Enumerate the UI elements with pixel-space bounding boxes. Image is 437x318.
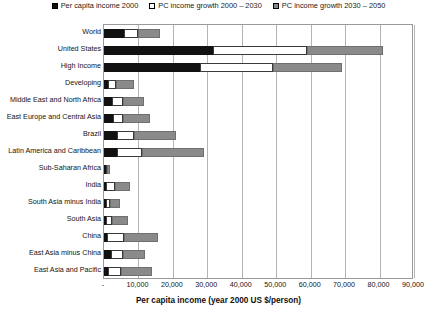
bar-segment-series-0[interactable] [104,46,213,55]
legend-item-0[interactable]: Per capita income 2000 [52,2,139,10]
y-axis-label: China [1,232,101,240]
bar-segment-series-2[interactable] [110,199,120,208]
bar-segment-series-1[interactable] [108,267,120,276]
y-axis-label: East Asia minus China [1,249,101,257]
bar-segment-series-2[interactable] [134,131,176,140]
bar-segment-series-1[interactable] [113,114,123,123]
x-axis-tick-label: - [102,280,104,289]
y-axis-label: Sub-Saharan Africa [1,164,101,172]
bar-segment-series-0[interactable] [104,131,117,140]
y-axis-label: Latin America and Caribbean [1,147,101,155]
x-axis-tick-label: 80,000 [368,280,390,289]
y-axis-label: Brazil [1,130,101,138]
bar-row [104,144,414,161]
bar-segment-series-2[interactable] [273,63,342,72]
bar-segment-series-2[interactable] [121,267,152,276]
bar-segment-series-2[interactable] [123,97,144,106]
bar-segment-series-1[interactable] [106,216,113,225]
legend-swatch-black-icon [52,3,58,9]
bar-row [104,59,414,76]
legend-item-2[interactable]: PC income growth 2030 – 2050 [273,2,386,10]
bar-segment-series-2[interactable] [107,165,109,174]
bar-segment-series-2[interactable] [124,233,158,242]
bar-row [104,76,414,93]
bar-segment-series-2[interactable] [112,216,128,225]
bar-segment-series-1[interactable] [117,148,141,157]
plot-area [103,24,413,279]
bar-segment-series-2[interactable] [138,29,160,38]
y-axis-label: United States [1,45,101,53]
x-axis-tick-label: 50,000 [264,280,286,289]
bar-row [104,263,414,280]
x-axis-tick-label: 70,000 [333,280,355,289]
y-axis-label: Middle East and North Africa [1,96,101,104]
bar-segment-series-0[interactable] [104,97,112,106]
bar-chart: Per capita income 2000PC income growth 2… [0,0,437,318]
bar-segment-series-1[interactable] [213,46,308,55]
legend-swatch-gray-icon [273,3,279,9]
y-axis-labels: WorldUnited StatesHigh IncomeDevelopingM… [0,24,101,279]
bar-segment-series-0[interactable] [104,63,200,72]
gridline [414,25,415,278]
bar-row [104,212,414,229]
y-axis-label: South Asia minus India [1,198,101,206]
bar-row [104,25,414,42]
y-axis-label: East Asia and Pacific [1,266,101,274]
x-axis-title: Per capita income (year 2000 US $/person… [0,296,437,305]
legend-label: PC income growth 2000 – 2030 [158,2,262,10]
bar-segment-series-2[interactable] [123,250,145,259]
y-axis-label: Developing [1,79,101,87]
bar-segment-series-0[interactable] [104,114,113,123]
x-axis-tick-label: 60,000 [299,280,321,289]
bar-segment-series-1[interactable] [124,29,138,38]
y-axis-label: South Asia [1,215,101,223]
bar-row [104,127,414,144]
chart-legend: Per capita income 2000PC income growth 2… [0,2,437,10]
bar-row [104,93,414,110]
x-axis-tick-label: 10,000 [126,280,148,289]
bar-segment-series-1[interactable] [111,250,122,259]
y-axis-label: India [1,181,101,189]
bar-row [104,110,414,127]
bar-segment-series-2[interactable] [116,80,134,89]
bar-segment-series-1[interactable] [106,182,115,191]
bar-row [104,42,414,59]
bar-segment-series-1[interactable] [108,80,116,89]
bar-segment-series-0[interactable] [104,29,124,38]
x-axis-tick-label: 90,000 [402,280,424,289]
bar-segment-series-2[interactable] [142,148,204,157]
bar-segment-series-2[interactable] [307,46,383,55]
y-axis-label: East Europe and Central Asia [1,113,101,121]
legend-label: PC income growth 2030 – 2050 [282,2,386,10]
legend-item-1[interactable]: PC income growth 2000 – 2030 [149,2,262,10]
bar-segment-series-1[interactable] [112,97,123,106]
bar-segment-series-2[interactable] [123,114,150,123]
y-axis-label: High Income [1,62,101,70]
bar-row [104,178,414,195]
bar-row [104,229,414,246]
bar-segment-series-2[interactable] [115,182,131,191]
bar-segment-series-0[interactable] [104,250,111,259]
x-axis-ticks: -10,00020,00030,00040,00050,00060,00070,… [0,280,437,292]
legend-label: Per capita income 2000 [61,2,139,10]
legend-swatch-white-icon [149,3,155,9]
y-axis-label: World [1,28,101,36]
bar-segment-series-1[interactable] [117,131,134,140]
bar-segment-series-0[interactable] [104,148,117,157]
x-axis-tick-label: 40,000 [230,280,252,289]
bar-row [104,161,414,178]
bar-row [104,195,414,212]
bar-segment-series-1[interactable] [200,63,272,72]
x-axis-tick-label: 30,000 [195,280,217,289]
x-axis-tick-label: 20,000 [161,280,183,289]
bar-row [104,246,414,263]
bar-segment-series-1[interactable] [107,233,124,242]
